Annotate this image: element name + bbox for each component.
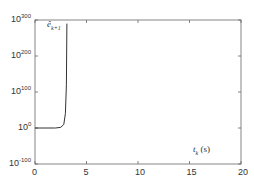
chart-canvas <box>0 0 254 187</box>
y-tick-label: 10100 <box>11 85 31 96</box>
x-tick-label: 0 <box>32 167 37 177</box>
x-tick-label: 15 <box>187 167 197 177</box>
x-tick-label: 5 <box>84 167 89 177</box>
y-tick-label: 10-100 <box>9 157 31 168</box>
series-line <box>35 24 67 128</box>
series-annotation: êk+1 <box>47 19 61 31</box>
y-tick-label: 10300 <box>11 13 31 24</box>
x-axis-label: tk (s) <box>193 144 210 156</box>
x-tick-label: 20 <box>238 167 248 177</box>
y-tick-label: 10200 <box>11 49 31 60</box>
y-tick-label: 100 <box>18 121 31 132</box>
x-tick-label: 10 <box>135 167 145 177</box>
